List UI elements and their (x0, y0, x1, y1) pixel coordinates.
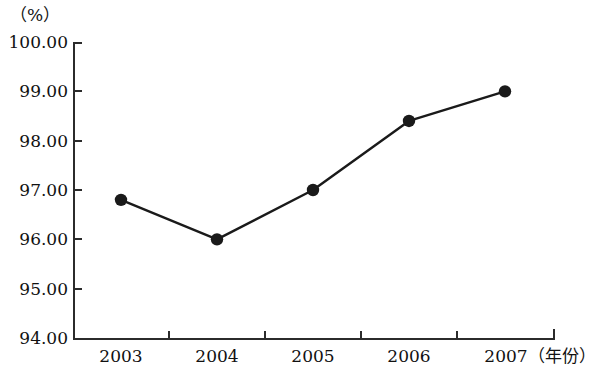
y-axis-tick-label: 95.00 (2, 281, 68, 298)
x-axis-tick-label: 2006 (361, 345, 457, 367)
y-axis-tick-label: 97.00 (2, 182, 68, 199)
x-axis-line (73, 338, 555, 340)
data-point-marker (499, 85, 511, 97)
y-axis-tick-label: 98.00 (2, 133, 68, 150)
y-axis-tick-labels: 100.0099.0098.0097.0096.0095.0094.00 (0, 0, 68, 372)
data-point-marker (211, 233, 223, 245)
data-series (73, 42, 553, 338)
x-axis-tick-label: 2003 (73, 345, 169, 367)
series-line (121, 91, 505, 239)
x-axis-tick-label-text: 2003 (99, 346, 142, 366)
x-axis-tick-labels: 20032004200520062007（年份） (0, 345, 606, 372)
x-axis-tick-label: 2007（年份） (457, 345, 606, 367)
x-axis-tick-label-text: 2007 (484, 346, 527, 366)
y-axis-tick-label: 96.00 (2, 231, 68, 248)
x-axis-tick-label: 2005 (265, 345, 361, 367)
plot-area (73, 42, 553, 338)
data-point-marker (115, 194, 127, 206)
x-axis-end-tick (553, 329, 555, 340)
x-axis-tick-label: 2004 (169, 345, 265, 367)
x-axis-unit-label: （年份） (528, 346, 596, 366)
x-axis-tick-label-text: 2004 (195, 346, 238, 366)
y-axis-tick-label: 100.00 (2, 34, 68, 51)
x-axis-tick-label-text: 2006 (387, 346, 430, 366)
x-axis-tick-label-text: 2005 (291, 346, 334, 366)
y-axis-tick-label: 99.00 (2, 83, 68, 100)
data-point-marker (307, 184, 319, 196)
data-point-marker (403, 115, 415, 127)
line-chart: （%） 100.0099.0098.0097.0096.0095.0094.00… (0, 0, 606, 372)
